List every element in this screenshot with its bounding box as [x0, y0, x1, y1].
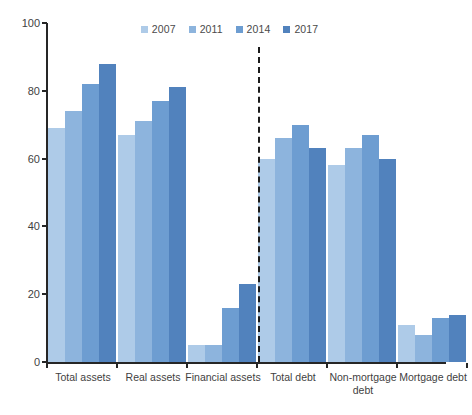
y-tick-label: 80	[28, 85, 40, 97]
bar-group: Financial assets	[188, 23, 258, 362]
x-tick	[396, 363, 398, 368]
bar	[362, 135, 379, 362]
y-tick-label: 40	[28, 220, 40, 232]
bar	[309, 148, 326, 362]
section-divider	[258, 47, 260, 362]
bar	[239, 284, 256, 362]
bar-group: Mortgage debt	[398, 23, 468, 362]
y-tick	[42, 225, 47, 227]
bar	[379, 159, 396, 362]
y-tick-label: 100	[22, 17, 40, 29]
x-axis	[46, 362, 446, 364]
y-tick-label: 60	[28, 153, 40, 165]
bar	[345, 148, 362, 362]
y-tick-label: 20	[28, 288, 40, 300]
bar	[292, 125, 309, 362]
bar	[415, 335, 432, 362]
bar	[432, 318, 449, 362]
x-tick	[326, 363, 328, 368]
bar	[258, 159, 275, 362]
bar	[449, 315, 466, 362]
bar	[152, 101, 169, 362]
x-tick	[256, 363, 258, 368]
bar	[135, 121, 152, 362]
bar	[222, 308, 239, 362]
y-tick-label: 0	[34, 356, 40, 368]
bar	[48, 128, 65, 362]
bar	[205, 345, 222, 362]
x-tick	[186, 363, 188, 368]
bar-group: Total assets	[48, 23, 118, 362]
bar	[328, 165, 345, 362]
y-tick	[42, 22, 47, 24]
bar	[65, 111, 82, 362]
y-tick	[42, 90, 47, 92]
bar-group: Total debt	[258, 23, 328, 362]
y-tick	[42, 293, 47, 295]
x-tick	[46, 363, 48, 368]
bar	[99, 64, 116, 362]
bar	[398, 325, 415, 362]
bar	[118, 135, 135, 362]
bar	[82, 84, 99, 362]
bar	[169, 87, 186, 362]
bar-groups: Total assetsReal assetsFinancial assetsT…	[48, 23, 446, 362]
x-tick-label: Mortgage debt	[390, 371, 472, 384]
x-tick	[116, 363, 118, 368]
bar-group: Non-mortgage debt	[328, 23, 398, 362]
bar-group: Real assets	[118, 23, 188, 362]
plot-area: 020406080100 Total assetsReal assetsFina…	[46, 23, 446, 362]
x-tick	[466, 363, 468, 368]
bar	[275, 138, 292, 362]
bar	[188, 345, 205, 362]
y-tick	[42, 158, 47, 160]
